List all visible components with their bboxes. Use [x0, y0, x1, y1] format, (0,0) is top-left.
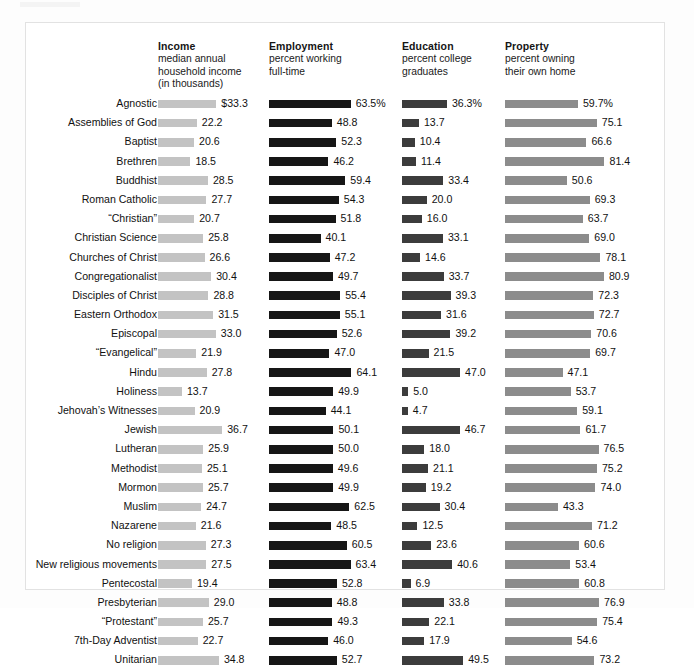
bar-education	[402, 253, 420, 262]
value-label-property: 54.6	[577, 634, 598, 647]
bar-income	[158, 426, 222, 435]
bar-education	[402, 215, 422, 224]
chart-row: Brethren18.546.211.481.4	[26, 153, 664, 172]
value-label-education: 33.1	[448, 231, 469, 244]
cell-income: 22.7	[158, 632, 263, 651]
bar-income	[158, 598, 209, 607]
bar-property	[505, 100, 578, 109]
value-label-education: 21.5	[434, 346, 455, 359]
cell-property: 59.7%	[505, 95, 653, 114]
cell-income: 27.7	[158, 191, 263, 210]
cell-employment: 52.3	[269, 133, 397, 152]
bar-property	[505, 272, 604, 281]
cell-property: 54.6	[505, 632, 653, 651]
chart-row: Hindu27.864.147.047.1	[26, 364, 664, 383]
value-label-property: 72.7	[599, 308, 620, 321]
column-title-education: Education	[402, 40, 472, 53]
row-label: Christian Science	[0, 231, 157, 244]
value-label-employment: 48.5	[336, 519, 357, 532]
value-label-education: 36.3%	[452, 97, 482, 110]
column-title-income: Income	[158, 40, 242, 53]
bar-employment	[269, 100, 351, 109]
value-label-income: 28.5	[213, 174, 234, 187]
cell-property: 50.6	[505, 172, 653, 191]
value-label-employment: 52.3	[341, 135, 362, 148]
cell-income: 28.8	[158, 287, 263, 306]
cell-income: 30.4	[158, 268, 263, 287]
chart-row: Lutheran25.950.018.076.5	[26, 440, 664, 459]
row-label: Mormon	[0, 481, 157, 494]
bar-income	[158, 119, 197, 128]
value-label-education: 49.5	[468, 653, 489, 666]
chart-row: Roman Catholic27.754.320.069.3	[26, 191, 664, 210]
value-label-employment: 54.3	[344, 193, 365, 206]
row-label: Hindu	[0, 366, 157, 379]
value-label-income: 22.2	[202, 116, 223, 129]
bar-income	[158, 100, 216, 109]
cell-education: 33.7	[402, 268, 502, 287]
chart-row: No religion27.360.523.660.6	[26, 536, 664, 555]
cell-property: 47.1	[505, 364, 653, 383]
value-label-employment: 49.9	[338, 481, 359, 494]
row-label: Pentecostal	[0, 577, 157, 590]
value-label-employment: 52.8	[342, 577, 363, 590]
row-label: Holiness	[0, 385, 157, 398]
cell-income: 25.7	[158, 613, 263, 632]
bar-employment	[269, 464, 333, 473]
column-subtitle-property-2: their own home	[505, 66, 575, 79]
cell-employment: 49.7	[269, 268, 397, 287]
chart-row: Buddhist28.559.433.450.6	[26, 172, 664, 191]
value-label-employment: 59.4	[350, 174, 371, 187]
value-label-income: 20.7	[199, 212, 220, 225]
cell-income: 26.6	[158, 249, 263, 268]
bar-education	[402, 407, 408, 416]
row-label: Jehovah’s Witnesses	[0, 404, 157, 417]
cell-education: 33.4	[402, 172, 502, 191]
cell-employment: 50.0	[269, 440, 397, 459]
value-label-property: 43.3	[563, 500, 584, 513]
cell-employment: 48.5	[269, 517, 397, 536]
chart-row: Muslim24.762.530.443.3	[26, 498, 664, 517]
value-label-income: 29.0	[214, 596, 235, 609]
value-label-education: 6.9	[416, 577, 431, 590]
bar-property	[505, 503, 558, 512]
value-label-education: 4.7	[413, 404, 428, 417]
chart-row: Presbyterian29.048.833.876.9	[26, 594, 664, 613]
bar-employment	[269, 291, 340, 300]
bar-property	[505, 291, 593, 300]
cell-employment: 52.6	[269, 325, 397, 344]
cell-education: 33.8	[402, 594, 502, 613]
row-label: Eastern Orthodox	[0, 308, 157, 321]
bar-employment	[269, 426, 333, 435]
cell-income: 31.5	[158, 306, 263, 325]
bar-property	[505, 253, 600, 262]
bar-income	[158, 541, 206, 550]
value-label-property: 72.3	[598, 289, 619, 302]
value-label-education: 21.1	[433, 462, 454, 475]
bar-property	[505, 234, 589, 243]
cell-property: 74.0	[505, 479, 653, 498]
bar-income	[158, 253, 205, 262]
value-label-property: 71.2	[597, 519, 618, 532]
bar-income	[158, 656, 219, 665]
cell-property: 60.8	[505, 575, 653, 594]
cell-income: 33.0	[158, 325, 263, 344]
cell-education: 21.1	[402, 460, 502, 479]
value-label-education: 14.6	[425, 251, 446, 264]
cell-education: 23.6	[402, 536, 502, 555]
column-header-income: Income median annual household income (i…	[158, 40, 242, 91]
cell-property: 81.4	[505, 153, 653, 172]
cell-education: 40.6	[402, 556, 502, 575]
value-label-education: 23.6	[436, 538, 457, 551]
cell-education: 13.7	[402, 114, 502, 133]
value-label-income: 13.7	[187, 385, 208, 398]
chart-row: Holiness13.749.95.053.7	[26, 383, 664, 402]
value-label-income: 27.8	[212, 366, 233, 379]
value-label-education: 22.1	[434, 615, 455, 628]
cell-property: 53.4	[505, 556, 653, 575]
chart-row: 7th-Day Adventist22.746.017.954.6	[26, 632, 664, 651]
column-subtitle-employment-1: percent working	[269, 53, 342, 66]
bar-income	[158, 560, 206, 569]
value-label-income: 18.5	[195, 155, 216, 168]
